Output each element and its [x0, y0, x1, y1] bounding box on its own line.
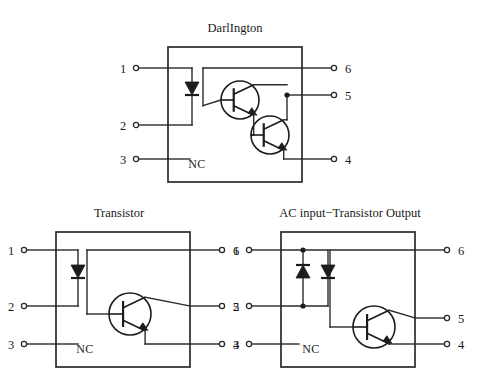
npn-transistor-symbol — [353, 306, 395, 348]
pin-terminal-2[interactable] — [246, 303, 251, 308]
transistor-emitter-arrow — [139, 323, 148, 331]
pin-terminal-3[interactable] — [246, 341, 251, 346]
pin-number-5: 5 — [345, 89, 351, 103]
pin-terminal-4[interactable] — [219, 341, 224, 346]
transistor-envelope — [221, 81, 259, 119]
transistor-emitter-lead — [234, 106, 254, 116]
transistor-emitter-arrow — [278, 143, 287, 151]
circuit-title-transistor: Transistor — [94, 206, 145, 220]
pin-number-2: 2 — [233, 300, 239, 314]
transistor-collector-lead — [264, 120, 284, 130]
led-symbol — [71, 265, 85, 278]
circuit-title-ac-input: AC input−Transistor Output — [279, 206, 421, 220]
pin-terminal-3[interactable] — [133, 156, 138, 161]
pin-number-6: 6 — [345, 62, 351, 76]
nc-label-ac-input: NC — [302, 342, 319, 356]
led-triangle — [321, 265, 335, 278]
led-triangle — [71, 265, 85, 278]
pin-number-5: 5 — [233, 300, 239, 314]
circuit-group-transistor: Transistor123654NC — [8, 206, 240, 367]
pin-number-3: 3 — [233, 338, 239, 352]
circuit-canvas-ac-input: AC input−Transistor Output123654NC — [0, 0, 478, 379]
transistor-envelope — [353, 306, 395, 348]
transistor-emitter-lead — [123, 320, 145, 331]
transistor-emitter-lead — [367, 333, 389, 344]
pin-terminal-2[interactable] — [21, 303, 26, 308]
led-triangle — [185, 82, 199, 95]
led-symbol — [185, 82, 199, 95]
package-outline-ac-input — [281, 232, 415, 367]
schematic-sheet: DarlIngton123654NCTransistor123654NCAC i… — [0, 0, 478, 379]
pin-terminal-6[interactable] — [219, 247, 224, 252]
pin-number-1: 1 — [8, 244, 14, 258]
circuit-canvas-transistor: Transistor123654NC — [0, 0, 478, 379]
pin-number-5: 5 — [458, 312, 464, 326]
pin-terminal-3[interactable] — [21, 341, 26, 346]
npn-transistor-symbol — [251, 116, 289, 154]
npn-transistor-symbol — [221, 81, 259, 119]
pin-number-3: 3 — [8, 338, 14, 352]
transistor-emitter-arrow — [248, 108, 257, 116]
pin-number-1: 1 — [233, 244, 239, 258]
pin-terminal-6[interactable] — [444, 247, 449, 252]
nc-label-darlington: NC — [188, 157, 205, 171]
transistor-collector-lead — [234, 85, 254, 95]
pin-terminal-6[interactable] — [331, 65, 336, 70]
npn-transistor-symbol — [109, 293, 151, 335]
transistor-emitter-lead — [264, 141, 284, 151]
pin-terminal-5[interactable] — [331, 92, 336, 97]
pin-number-6: 6 — [233, 244, 239, 258]
transistor-envelope — [109, 293, 151, 335]
circuit-canvas-darlington: DarlIngton123654NC — [0, 0, 478, 379]
pin-terminal-4[interactable] — [331, 156, 336, 161]
led-symbol — [296, 265, 310, 278]
led-symbol — [321, 265, 335, 278]
junction-dot — [300, 247, 305, 252]
pin-terminal-1[interactable] — [133, 65, 138, 70]
pin-number-4: 4 — [345, 153, 352, 167]
pin-number-1: 1 — [120, 62, 126, 76]
pin-terminal-4[interactable] — [444, 341, 449, 346]
pin-terminal-1[interactable] — [21, 247, 26, 252]
pin-number-2: 2 — [8, 300, 14, 314]
package-outline-darlington — [168, 47, 302, 182]
pin-terminal-1[interactable] — [246, 247, 251, 252]
pin-terminal-2[interactable] — [133, 122, 138, 127]
transistor-envelope — [251, 116, 289, 154]
pin-number-4: 4 — [458, 338, 465, 352]
transistor-collector-lead — [123, 297, 145, 308]
pin-terminal-5[interactable] — [219, 303, 224, 308]
package-outline-transistor — [56, 232, 190, 367]
junction-dot — [300, 303, 305, 308]
wire-pin5-collector — [145, 297, 190, 306]
pin-number-3: 3 — [120, 153, 126, 167]
wire-q1-base — [203, 100, 221, 106]
pin-number-2: 2 — [120, 119, 126, 133]
pin-number-6: 6 — [458, 244, 464, 258]
nc-label-transistor: NC — [76, 342, 93, 356]
circuit-group-darlington: DarlIngton123654NC — [120, 21, 352, 182]
transistor-collector-lead — [367, 310, 389, 321]
pin-number-4: 4 — [233, 338, 240, 352]
led-triangle — [296, 265, 310, 278]
circuit-title-darlington: DarlIngton — [208, 21, 264, 35]
pin-terminal-5[interactable] — [444, 315, 449, 320]
circuit-group-ac-input: AC input−Transistor Output123654NC — [233, 206, 465, 367]
junction-dot — [284, 92, 289, 97]
transistor-emitter-arrow — [383, 336, 392, 344]
wire-pin5-collector — [389, 310, 415, 318]
